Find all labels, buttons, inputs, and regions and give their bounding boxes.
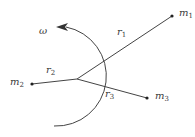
radius-line-r1 — [77, 16, 172, 79]
r2-label: r2 — [46, 65, 55, 77]
r3-label: r3 — [105, 89, 114, 101]
mass-point-m3 — [145, 96, 148, 99]
r1-label: r1 — [117, 27, 126, 39]
mass-point-m1 — [170, 14, 173, 17]
radius-line-r2 — [32, 79, 77, 84]
mass-point-m2 — [30, 82, 33, 85]
m1-label: m1 — [179, 8, 193, 20]
diagram-canvas — [0, 0, 195, 137]
omega-label: ω — [39, 26, 47, 36]
m3-label: m3 — [155, 91, 169, 103]
m2-label: m2 — [10, 77, 24, 89]
